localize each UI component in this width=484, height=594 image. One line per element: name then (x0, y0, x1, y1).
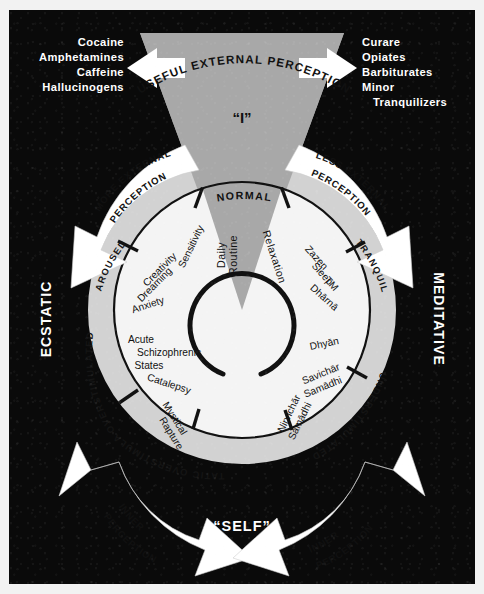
drug-left-3: Hallucinogens (42, 81, 124, 93)
drug-list-right: Curare Opiates Barbiturates Minor Tranqu… (362, 36, 447, 108)
diagram-panel: MORE EXTERNAL PERCEPTION LESS EXTERNAL P… (9, 10, 475, 584)
drug-right-3: Minor (362, 81, 395, 93)
drug-right-4: Tranquilizers (373, 96, 447, 108)
drug-right-0: Curare (362, 36, 400, 48)
figure-stage: MORE EXTERNAL PERCEPTION LESS EXTERNAL P… (0, 0, 484, 594)
drug-right-1: Opiates (362, 51, 406, 63)
drug-left-2: Caffeine (77, 66, 124, 78)
side-label-meditative: MEDITATIVE (431, 272, 447, 366)
svg-text:Daily: Daily (215, 242, 227, 268)
svg-text:Schizophrenic: Schizophrenic (137, 347, 201, 358)
i-label: “I” (232, 109, 251, 126)
drug-left-0: Cocaine (78, 36, 124, 48)
drug-left-1: Amphetamines (39, 51, 124, 63)
svg-text:Routine: Routine (227, 235, 239, 275)
drug-right-2: Barbiturates (362, 66, 433, 78)
svg-text:Acute: Acute (128, 334, 154, 345)
self-label: “SELF” (213, 518, 271, 534)
drug-list-left: Cocaine Amphetamines Caffeine Hallucinog… (39, 36, 124, 93)
side-label-ecstatic: ECSTATIC (38, 281, 54, 358)
consciousness-map-svg: MORE EXTERNAL PERCEPTION LESS EXTERNAL P… (9, 10, 475, 584)
svg-text:States: States (135, 360, 164, 371)
